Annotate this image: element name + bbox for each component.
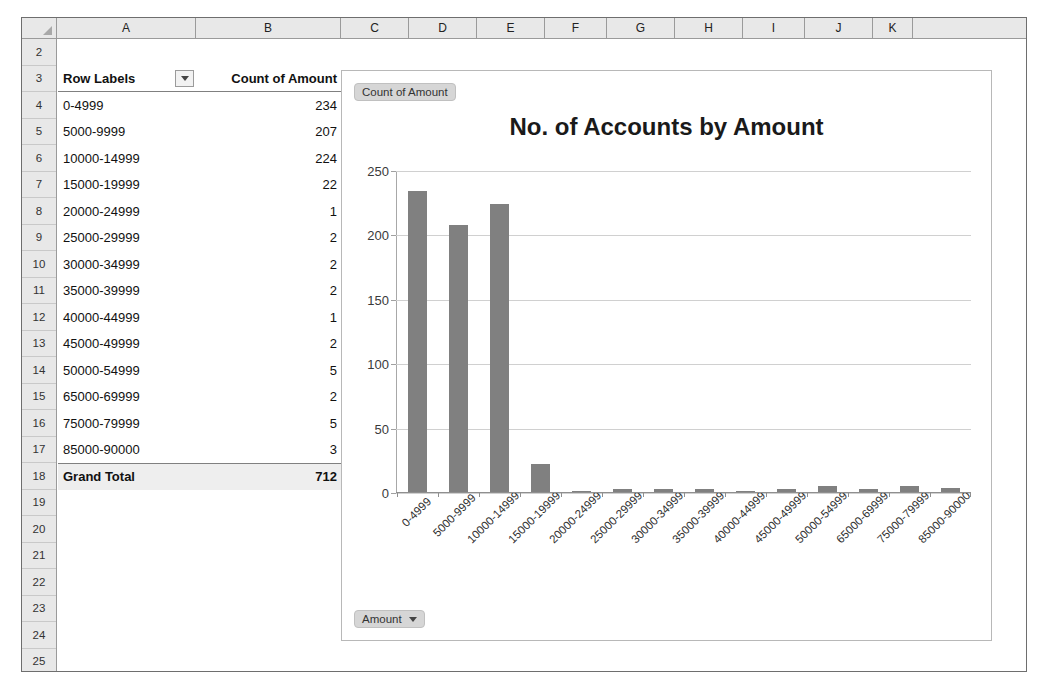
cell-value[interactable]: 5 xyxy=(197,410,342,437)
row-header-19[interactable]: 19 xyxy=(22,490,56,517)
bar-slot: 0-4999 xyxy=(397,171,438,492)
cell-value[interactable]: 2 xyxy=(197,384,342,411)
legend-field-button[interactable]: Count of Amount xyxy=(354,83,456,101)
cell-label[interactable]: 15000-19999 xyxy=(58,172,197,199)
cell-value[interactable]: 1 xyxy=(197,304,342,331)
row-header-6[interactable]: 6 xyxy=(22,145,56,172)
excel-pivot-screenshot: ABCDEFGHIJK 2345678910111213141516171819… xyxy=(0,0,1041,686)
row-header-23[interactable]: 23 xyxy=(22,596,56,623)
cell-value[interactable]: 234 xyxy=(197,92,342,119)
row-header-2[interactable]: 2 xyxy=(22,39,56,66)
row-header-25[interactable]: 25 xyxy=(22,649,56,673)
select-all-corner[interactable] xyxy=(22,18,57,38)
cell-label[interactable]: Grand Total xyxy=(58,463,197,490)
cell-value[interactable]: 5 xyxy=(197,357,342,384)
row-header-12[interactable]: 12 xyxy=(22,304,56,331)
column-header-a[interactable]: A xyxy=(57,18,196,38)
bar[interactable] xyxy=(531,464,550,492)
cell-label[interactable]: 0-4999 xyxy=(58,92,197,119)
axis-field-button[interactable]: Amount xyxy=(354,610,425,628)
bar[interactable] xyxy=(490,204,509,493)
cell-value[interactable]: 3 xyxy=(197,437,342,464)
row-header-8[interactable]: 8 xyxy=(22,198,56,225)
column-header-k[interactable]: K xyxy=(873,18,913,38)
row-header-10[interactable]: 10 xyxy=(22,251,56,278)
column-header-c[interactable]: C xyxy=(341,18,409,38)
bar-slot: 30000-34999 xyxy=(643,171,684,492)
cell-label[interactable]: Row Labels xyxy=(58,66,197,93)
cell-value[interactable]: 2 xyxy=(197,225,342,252)
cell-value[interactable]: 22 xyxy=(197,172,342,199)
bar-slot: 40000-44999 xyxy=(725,171,766,492)
cell-label[interactable]: 75000-79999 xyxy=(58,410,197,437)
column-header-f[interactable]: F xyxy=(545,18,607,38)
filter-dropdown-icon xyxy=(181,76,189,81)
row-header-strip: 2345678910111213141516171819202122232425 xyxy=(22,39,57,672)
row-header-16[interactable]: 16 xyxy=(22,410,56,437)
row-header-15[interactable]: 15 xyxy=(22,384,56,411)
bar-slot: 15000-19999 xyxy=(520,171,561,492)
bar-slot: 45000-49999 xyxy=(766,171,807,492)
column-header-h[interactable]: H xyxy=(675,18,743,38)
y-axis-tick-label: 50 xyxy=(375,421,389,436)
bar-series: 0-49995000-999910000-1499915000-19999200… xyxy=(397,171,971,492)
cell-value[interactable]: 224 xyxy=(197,145,342,172)
y-axis-tick-label: 0 xyxy=(382,486,389,501)
y-axis-tick-label: 150 xyxy=(367,292,389,307)
row-header-13[interactable]: 13 xyxy=(22,331,56,358)
y-axis-tick-label: 200 xyxy=(367,228,389,243)
cell-label[interactable]: 65000-69999 xyxy=(58,384,197,411)
cell-value[interactable]: 1 xyxy=(197,198,342,225)
bar-slot: 35000-39999 xyxy=(684,171,725,492)
cell-label[interactable]: 5000-9999 xyxy=(58,119,197,146)
cell-label[interactable]: 10000-14999 xyxy=(58,145,197,172)
cell-value[interactable]: 207 xyxy=(197,119,342,146)
column-header-j[interactable]: J xyxy=(805,18,873,38)
plot-area: 050100150200250 0-49995000-999910000-149… xyxy=(396,171,971,493)
y-axis-tick-mark xyxy=(391,364,396,365)
row-header-22[interactable]: 22 xyxy=(22,569,56,596)
cell-value[interactable]: 2 xyxy=(197,331,342,358)
pivot-chart[interactable]: Count of Amount No. of Accounts by Amoun… xyxy=(341,70,992,641)
column-header-g[interactable]: G xyxy=(607,18,675,38)
row-header-3[interactable]: 3 xyxy=(22,66,56,93)
column-header-e[interactable]: E xyxy=(477,18,545,38)
bar[interactable] xyxy=(408,191,427,492)
cell-label[interactable]: 85000-90000 xyxy=(58,437,197,464)
bar-slot: 50000-54999 xyxy=(807,171,848,492)
cell-value[interactable]: 2 xyxy=(197,251,342,278)
cell-label[interactable]: 35000-39999 xyxy=(58,278,197,305)
cell-label[interactable]: 30000-34999 xyxy=(58,251,197,278)
cell-label[interactable]: 40000-44999 xyxy=(58,304,197,331)
row-header-9[interactable]: 9 xyxy=(22,225,56,252)
y-axis-tick-mark xyxy=(391,235,396,236)
column-header-d[interactable]: D xyxy=(409,18,477,38)
cell-value[interactable]: 2 xyxy=(197,278,342,305)
bar-slot: 65000-69999 xyxy=(848,171,889,492)
spreadsheet-window: ABCDEFGHIJK 2345678910111213141516171819… xyxy=(21,17,1027,672)
row-header-7[interactable]: 7 xyxy=(22,172,56,199)
bar[interactable] xyxy=(449,225,468,492)
row-header-18[interactable]: 18 xyxy=(22,463,56,490)
cell-label[interactable]: 50000-54999 xyxy=(58,357,197,384)
cell-value[interactable]: Count of Amount xyxy=(197,66,342,93)
cell-label[interactable]: 45000-49999 xyxy=(58,331,197,358)
chart-title: No. of Accounts by Amount xyxy=(342,113,991,141)
column-header-i[interactable]: I xyxy=(743,18,805,38)
row-header-4[interactable]: 4 xyxy=(22,92,56,119)
y-axis-tick-mark xyxy=(391,171,396,172)
cell-label[interactable]: 20000-24999 xyxy=(58,198,197,225)
chevron-down-icon xyxy=(409,617,417,622)
row-header-5[interactable]: 5 xyxy=(22,119,56,146)
cell-label[interactable]: 25000-29999 xyxy=(58,225,197,252)
row-header-21[interactable]: 21 xyxy=(22,543,56,570)
cell-value[interactable]: 712 xyxy=(197,463,342,490)
row-header-17[interactable]: 17 xyxy=(22,437,56,464)
row-labels-filter-button[interactable] xyxy=(175,70,194,87)
y-axis-tick-mark xyxy=(391,300,396,301)
row-header-11[interactable]: 11 xyxy=(22,278,56,305)
row-header-14[interactable]: 14 xyxy=(22,357,56,384)
row-header-20[interactable]: 20 xyxy=(22,516,56,543)
column-header-b[interactable]: B xyxy=(196,18,341,38)
row-header-24[interactable]: 24 xyxy=(22,622,56,649)
